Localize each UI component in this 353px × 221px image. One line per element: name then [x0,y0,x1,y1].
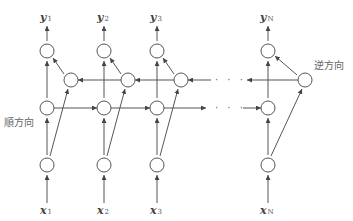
backward-node [174,73,188,87]
backward-to-output-arrow [275,56,297,75]
backward-ellipsis: · · · [215,74,246,85]
column-1 [40,26,78,203]
backward-node [298,73,312,87]
backward-node [64,73,78,87]
column-3 [150,26,188,203]
output-node [150,44,164,58]
input-label-3: x3 [149,204,162,217]
input-node [97,158,111,172]
backward-to-output-arrow [53,58,64,74]
input-label-2: x2 [96,204,109,217]
backward-to-output-arrow [110,58,121,74]
forward-node [40,101,54,115]
input-to-backward-arrow [50,89,68,156]
input-node [261,158,275,172]
column-n [261,26,312,203]
output-label-n: yN [259,11,274,24]
forward-node [150,101,164,115]
output-labels: y1 y2 y3 yN [39,11,274,24]
output-node [261,44,275,58]
backward-to-output-arrow [163,58,174,74]
forward-node [261,101,275,115]
forward-direction-label: 順方向 [4,116,34,128]
input-to-backward-arrow [160,89,178,156]
output-node [40,44,54,58]
column-2 [97,26,135,203]
bidirectional-rnn-diagram: · · · · · · 順方向 逆方向 y1 y2 y3 yN x1 x2 x3… [0,0,353,221]
input-to-backward-arrow [107,89,125,156]
input-labels: x1 x2 x3 xN [39,204,274,217]
input-label-n: xN [259,204,274,217]
forward-ellipsis: · · · [215,102,246,113]
output-label-3: y3 [149,11,162,24]
input-node [150,158,164,172]
forward-node [97,101,111,115]
input-label-1: x1 [39,204,52,217]
backward-node [121,73,135,87]
output-label-2: y2 [96,11,109,24]
input-node [40,158,54,172]
output-label-1: y1 [39,11,52,24]
backward-direction-label: 逆方向 [314,59,344,71]
output-node [97,44,111,58]
input-to-backward-arrow [271,89,302,156]
